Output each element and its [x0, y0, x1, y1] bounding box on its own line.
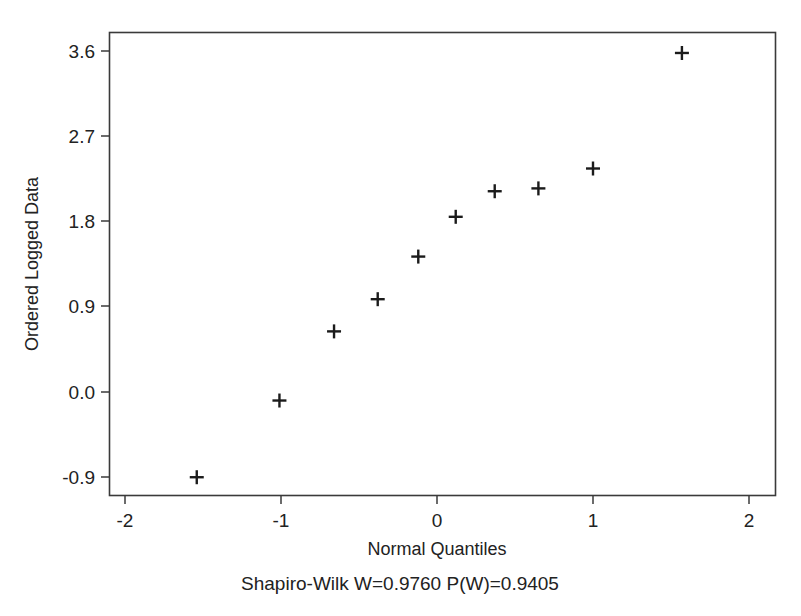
data-point-marker: [371, 292, 385, 306]
x-tick-label-4: 2: [744, 510, 755, 531]
shapiro-wilk-caption: Shapiro-Wilk W=0.9760 P(W)=0.9405: [241, 573, 559, 594]
data-point-marker: [272, 394, 286, 408]
y-axis-title: Ordered Logged Data: [22, 176, 42, 351]
x-tick-label-3: 1: [588, 510, 599, 531]
chart-svg: 3.6 2.7 1.8 0.9 0.0 -0.9 -2 -1 0 1 2 Nor…: [0, 0, 801, 616]
x-axis-ticks: [125, 496, 749, 505]
qq-plot-figure: 3.6 2.7 1.8 0.9 0.0 -0.9 -2 -1 0 1 2 Nor…: [0, 0, 801, 616]
data-point-marker: [190, 470, 204, 484]
data-point-marker: [586, 162, 600, 176]
data-point-marker: [411, 250, 425, 264]
x-axis-title: Normal Quantiles: [367, 539, 506, 559]
data-point-marker: [449, 210, 463, 224]
y-tick-label-1: 2.7: [69, 126, 95, 147]
y-axis-ticks: [101, 51, 110, 477]
x-tick-label-0: -2: [117, 510, 134, 531]
y-tick-label-4: 0.0: [69, 382, 95, 403]
x-tick-label-1: -1: [273, 510, 290, 531]
x-axis-tick-labels: -2 -1 0 1 2: [117, 510, 755, 531]
data-point-group: [190, 46, 689, 484]
plot-area-frame: [110, 33, 776, 496]
y-axis-tick-labels: 3.6 2.7 1.8 0.9 0.0 -0.9: [62, 41, 95, 488]
y-tick-label-5: -0.9: [62, 467, 95, 488]
data-point-marker: [327, 324, 341, 338]
data-point-marker: [531, 181, 545, 195]
y-tick-label-2: 1.8: [69, 211, 95, 232]
y-tick-label-0: 3.6: [69, 41, 95, 62]
data-point-marker: [488, 184, 502, 198]
x-tick-label-2: 0: [432, 510, 443, 531]
data-point-marker: [675, 46, 689, 60]
y-tick-label-3: 0.9: [69, 296, 95, 317]
